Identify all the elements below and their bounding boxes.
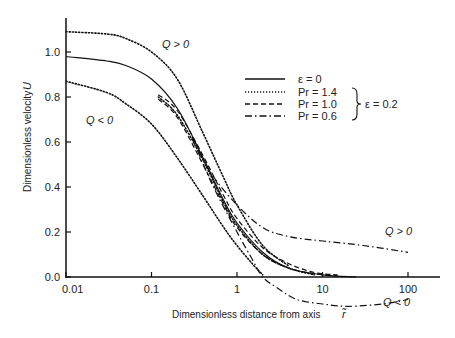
legend-group-label: ε = 0.2 xyxy=(365,98,398,110)
series-line-1 xyxy=(66,32,289,266)
y-tick-label: 0.2 xyxy=(45,226,60,238)
annotation-label: Q > 0 xyxy=(162,38,190,50)
x-tick-label: 100 xyxy=(399,283,417,295)
legend-label-pr10: Pr = 1.0 xyxy=(298,98,337,110)
chart: 0.00.20.40.60.81.0 0.010.1110100 Q > 0Q … xyxy=(0,0,455,338)
series-line-2 xyxy=(66,81,263,274)
series-group xyxy=(66,32,408,307)
annotation-label: Q < 0 xyxy=(86,114,114,126)
x-ticks: 0.010.1110100 xyxy=(62,272,417,295)
y-axis-title: Dimensionless velocity xyxy=(22,91,33,192)
axes xyxy=(66,18,440,278)
y-tick-label: 1.0 xyxy=(45,46,60,58)
y-tick-label: 0.8 xyxy=(45,91,60,103)
x-axis-symbol: r̃ xyxy=(342,308,347,320)
y-tick-label: 0.0 xyxy=(45,271,60,283)
legend-brace-icon xyxy=(352,88,361,120)
x-tick-label: 0.1 xyxy=(144,283,159,295)
x-tick-label: 1 xyxy=(234,283,240,295)
legend: ε = 0 Pr = 1.4 Pr = 1.0 Pr = 0.6 ε = 0.2 xyxy=(245,73,398,122)
x-axis-title: Dimensionless distance from axis xyxy=(172,309,320,320)
series-line-5 xyxy=(158,99,337,276)
legend-label-pr14: Pr = 1.4 xyxy=(298,86,337,98)
legend-label-eps0: ε = 0 xyxy=(298,73,322,85)
series-line-7 xyxy=(192,138,408,307)
series-line-6 xyxy=(192,138,408,253)
y-axis-symbol: U xyxy=(21,82,33,90)
y-tick-label: 0.6 xyxy=(45,136,60,148)
annotation-label: Q < 0 xyxy=(383,296,411,308)
annotation-label: Q > 0 xyxy=(385,225,413,237)
x-tick-label: 10 xyxy=(316,283,328,295)
y-tick-label: 0.4 xyxy=(45,181,60,193)
legend-label-pr06: Pr = 0.6 xyxy=(298,110,337,122)
x-tick-label: 0.01 xyxy=(62,283,83,295)
